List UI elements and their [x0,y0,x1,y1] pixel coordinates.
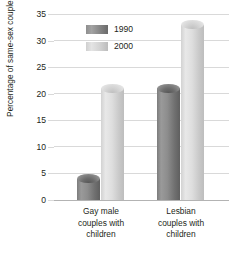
y-axis-tick-label: 10 [2,142,46,152]
bar-1990-lesbian [157,88,180,200]
bar-body [101,88,124,200]
category-label-line: couples with [55,218,147,230]
x-axis-category-label: Lesbiancouples withchildren [135,206,227,241]
category-label-line: couples with [135,218,227,230]
x-axis-category-label: Gay malecouples withchildren [55,206,147,241]
tick-mark [48,120,54,121]
bar-body [181,25,204,200]
tick-mark [48,200,54,201]
bar-2000-lesbian [181,25,204,200]
chart-legend: 1990 2000 [86,23,133,57]
y-axis-tick-label: 35 [2,9,46,19]
category-label-line: children [55,229,147,241]
bar-2000-gay-male [101,88,124,200]
bar-body [157,88,180,200]
y-axis-tick-label: 30 [2,36,46,46]
legend-swatch-2000-icon [86,42,108,51]
tick-mark [48,94,54,95]
bar-top-ellipse-icon [101,84,124,93]
bar-top-ellipse-icon [157,84,180,93]
tick-mark [48,67,54,68]
category-label-line: Lesbian [135,206,227,218]
legend-item: 2000 [86,40,133,53]
plot-area: 05101520253035 [54,14,229,200]
legend-label-2000: 2000 [114,42,133,51]
y-axis-tick-label: 5 [2,168,46,178]
bar-chart: Percentage of same-sex couples 051015202… [0,0,240,254]
tick-mark [48,173,54,174]
category-label-line: Gay male [55,206,147,218]
category-label-line: children [135,229,227,241]
y-axis-tick-label: 20 [2,89,46,99]
legend-label-1990: 1990 [114,25,133,34]
y-axis-tick-label: 0 [2,195,46,205]
y-axis-tick-label: 15 [2,115,46,125]
legend-item: 1990 [86,23,133,36]
tick-mark [48,41,54,42]
tick-mark [48,147,54,148]
gridline [54,14,229,15]
y-axis-tick-label: 25 [2,62,46,72]
legend-swatch-1990-icon [86,25,108,34]
tick-mark [48,14,54,15]
bar-1990-gay-male [77,179,100,200]
